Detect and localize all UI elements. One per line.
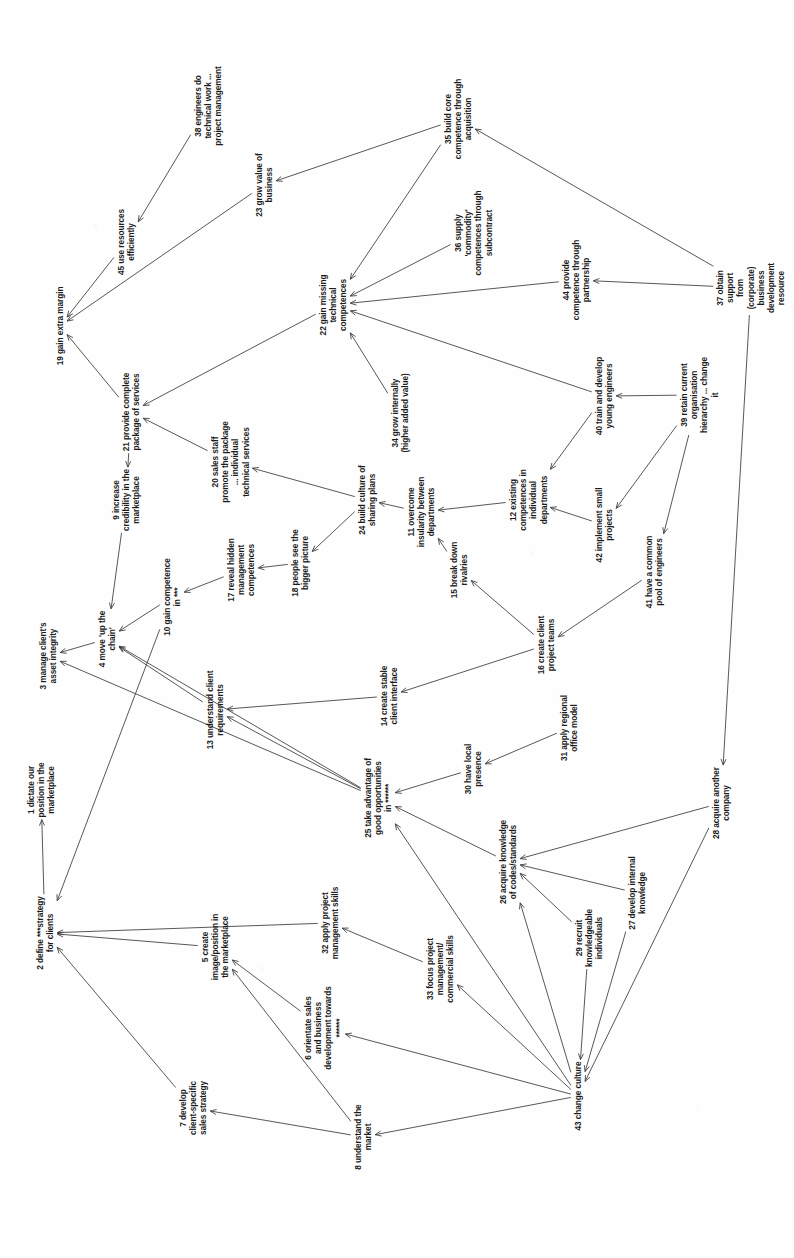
map-edge xyxy=(395,773,461,794)
map-edge xyxy=(401,649,534,693)
map-node-22[interactable]: 22 gain missing technical competences xyxy=(318,275,349,336)
map-node-44[interactable]: 44 provide competence through partnershi… xyxy=(561,240,592,320)
map-edge xyxy=(210,1110,350,1135)
map-node-31[interactable]: 31 apply regional office model xyxy=(559,695,579,761)
map-edge xyxy=(67,335,119,398)
map-node-7[interactable]: 7 develop client-specific sales strategy xyxy=(178,1081,209,1135)
map-node-25[interactable]: 25 take advantage of good opportunities … xyxy=(363,758,394,838)
map-node-4[interactable]: 4 move 'up the chain' xyxy=(97,611,117,667)
map-node-17[interactable]: 17 reveal hidden management competences xyxy=(226,538,257,601)
map-node-6[interactable]: 6 orientate sales and business developme… xyxy=(303,986,344,1069)
map-edge xyxy=(721,315,749,765)
map-edge xyxy=(520,864,625,890)
map-node-26[interactable]: 26 acquire knowledge of codes/standards xyxy=(498,820,518,904)
map-node-13[interactable]: 13 understand client requirements xyxy=(205,671,225,750)
map-node-38[interactable]: 38 engineers do technical work ... proje… xyxy=(193,66,224,145)
map-node-20[interactable]: 20 sales staff promote the package ... i… xyxy=(210,421,251,503)
map-node-35[interactable]: 35 build core competence through acquisi… xyxy=(443,79,474,159)
map-edge xyxy=(616,426,676,509)
map-node-5[interactable]: 5 create image/position in the marketpla… xyxy=(200,914,231,981)
map-node-21[interactable]: 21 provide complete package of services xyxy=(121,373,141,451)
map-node-39[interactable]: 39 retain current organisation hierarchy… xyxy=(679,357,720,433)
map-edge xyxy=(345,1033,571,1094)
arrowhead-icon xyxy=(350,273,355,279)
map-edge xyxy=(520,873,572,921)
map-node-10[interactable]: 10 gain competence in *** xyxy=(162,558,182,636)
map-edge xyxy=(475,129,713,266)
map-edge xyxy=(550,413,591,470)
map-edge xyxy=(138,135,191,222)
map-edge xyxy=(57,947,176,1087)
map-node-28[interactable]: 28 acquire another company xyxy=(711,767,731,839)
map-edge xyxy=(109,533,121,609)
map-edge xyxy=(126,453,131,467)
map-node-45[interactable]: 45 use resources efficiently xyxy=(116,209,136,275)
map-node-40[interactable]: 40 train and develop young engineers xyxy=(594,357,614,435)
map-edge xyxy=(60,643,95,654)
map-edge xyxy=(119,647,203,702)
arrowhead-icon xyxy=(395,824,400,830)
map-edge xyxy=(67,193,252,321)
map-edge xyxy=(379,502,404,509)
map-edge xyxy=(227,717,361,789)
arrowhead-icon xyxy=(350,333,355,339)
map-node-27[interactable]: 27 develop internal knowledge xyxy=(627,856,647,929)
map-node-36[interactable]: 36 supply 'commodity' competences throug… xyxy=(453,191,494,276)
map-edge xyxy=(593,279,713,287)
map-node-37[interactable]: 37 obtain support from (corporate) busin… xyxy=(715,263,786,313)
map-node-12[interactable]: 12 existing competences in individual de… xyxy=(508,469,549,530)
map-edge xyxy=(232,960,300,1011)
map-edge xyxy=(438,503,505,512)
map-node-30[interactable]: 30 have local presence xyxy=(463,744,483,794)
map-edge xyxy=(252,467,354,496)
map-edge xyxy=(342,928,423,962)
arrowhead-icon xyxy=(138,215,143,222)
map-node-34[interactable]: 34 grow internally (higher added value) xyxy=(390,373,410,452)
map-node-33[interactable]: 33 focus project management/ commercial … xyxy=(425,935,456,1002)
map-node-23[interactable]: 23 grow value of business xyxy=(254,153,274,216)
map-edge xyxy=(57,923,318,935)
map-node-2[interactable]: 2 define ***strategy for clients xyxy=(35,896,55,970)
map-edge xyxy=(395,824,571,1086)
map-node-32[interactable]: 32 apply project management skills xyxy=(320,887,340,960)
map-node-3[interactable]: 3 manage client's asset integrity xyxy=(38,622,58,689)
map-edge xyxy=(350,245,450,297)
map-edge xyxy=(143,314,316,405)
map-node-18[interactable]: 18 people see the bigger picture xyxy=(290,529,310,596)
map-node-8[interactable]: 8 understand the market xyxy=(353,1104,373,1169)
map-node-15[interactable]: 15 break down rivalries xyxy=(449,542,469,598)
map-edge xyxy=(350,333,388,393)
map-edge xyxy=(550,507,591,521)
map-node-16[interactable]: 16 create client project teams xyxy=(536,616,556,674)
arrowhead-icon xyxy=(558,631,564,637)
arrowhead-icon xyxy=(438,538,443,544)
map-edge xyxy=(57,629,160,900)
map-node-29[interactable]: 29 recruit knowledgeable individuals xyxy=(574,909,605,967)
map-node-11[interactable]: 11 overcome insularity between departmen… xyxy=(406,477,437,548)
edge-layer xyxy=(0,0,794,1258)
map-edge xyxy=(350,145,440,280)
map-edge xyxy=(578,969,586,1060)
map-node-14[interactable]: 14 create stable client interface xyxy=(379,666,399,727)
map-edge xyxy=(227,697,377,711)
map-node-9[interactable]: 9 increase credibility in the marketplac… xyxy=(111,469,142,531)
map-edge xyxy=(520,806,709,859)
map-node-24[interactable]: 24 build culture of sharing plans xyxy=(357,465,377,535)
map-edge xyxy=(57,932,198,946)
map-edge xyxy=(471,581,534,635)
map-edge xyxy=(485,733,557,764)
map-node-19[interactable]: 19 gain extra margin xyxy=(55,287,65,366)
map-node-43[interactable]: 43 change culture xyxy=(573,1062,583,1131)
map-edge xyxy=(395,807,496,857)
map-edge xyxy=(143,418,207,451)
map-edge xyxy=(119,605,160,631)
map-edge xyxy=(184,577,224,593)
map-node-1[interactable]: 1 dictate our position in the marketplac… xyxy=(26,762,57,817)
map-node-41[interactable]: 41 have a common pool of engineers xyxy=(644,536,664,609)
map-node-42[interactable]: 42 implement small projects xyxy=(594,488,614,563)
map-edge xyxy=(558,580,642,637)
map-edge xyxy=(258,564,288,569)
map-edge xyxy=(350,310,592,392)
map-edge xyxy=(350,282,558,305)
map-edge xyxy=(276,125,441,181)
